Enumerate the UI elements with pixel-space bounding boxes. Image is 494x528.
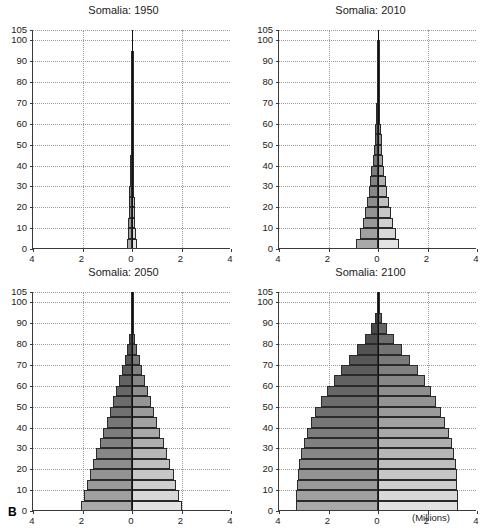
bar-male bbox=[315, 407, 378, 417]
y-tick-mark bbox=[276, 448, 279, 449]
center-axis-line bbox=[132, 292, 133, 510]
y-tick-label: 0 bbox=[2, 244, 27, 254]
y-tick-mark bbox=[30, 124, 33, 125]
gridline-vertical bbox=[83, 292, 84, 510]
y-tick-mark bbox=[30, 407, 33, 408]
x-tick-mark bbox=[279, 511, 280, 514]
bar-male bbox=[119, 375, 132, 385]
bar-male bbox=[341, 365, 378, 375]
gridline-vertical bbox=[329, 292, 330, 510]
x-tick-label: 4 bbox=[218, 254, 242, 264]
y-tick-mark bbox=[276, 302, 279, 303]
bar-female bbox=[378, 323, 387, 333]
bar-male bbox=[357, 344, 378, 354]
y-tick-label: 10 bbox=[2, 485, 27, 495]
y-tick-mark bbox=[276, 145, 279, 146]
bar-male bbox=[371, 323, 378, 333]
y-tick-label: 80 bbox=[248, 77, 273, 87]
gridline-vertical bbox=[428, 30, 429, 248]
y-tick-label: 0 bbox=[248, 244, 273, 254]
x-tick-label: 4 bbox=[218, 516, 242, 526]
bar-female bbox=[132, 490, 179, 500]
y-tick-mark bbox=[276, 61, 279, 62]
bar-male bbox=[321, 396, 378, 406]
y-tick-mark bbox=[276, 344, 279, 345]
gridline-vertical bbox=[329, 30, 330, 248]
plot-area-2010 bbox=[278, 30, 476, 249]
y-tick-label: 105 bbox=[248, 25, 273, 35]
bar-female bbox=[378, 448, 454, 458]
y-tick-label: 40 bbox=[248, 161, 273, 171]
y-tick-label: 90 bbox=[248, 318, 273, 328]
x-tick-mark bbox=[428, 249, 429, 252]
x-tick-mark bbox=[33, 249, 34, 252]
y-tick-label: 105 bbox=[2, 287, 27, 297]
y-tick-label: 105 bbox=[248, 287, 273, 297]
y-tick-mark bbox=[276, 186, 279, 187]
bar-female bbox=[378, 417, 445, 427]
y-tick-label: 40 bbox=[248, 423, 273, 433]
x-tick-label: 0 bbox=[119, 516, 143, 526]
x-tick-label: 4 bbox=[464, 516, 488, 526]
y-tick-label: 50 bbox=[248, 402, 273, 412]
y-tick-label: 105 bbox=[2, 25, 27, 35]
y-tick-mark bbox=[30, 292, 33, 293]
y-tick-label: 70 bbox=[248, 360, 273, 370]
bar-male bbox=[100, 438, 132, 448]
plot-area-1950 bbox=[32, 30, 230, 249]
y-tick-mark bbox=[30, 103, 33, 104]
y-tick-label: 10 bbox=[248, 223, 273, 233]
x-tick-label: 2 bbox=[316, 254, 340, 264]
y-tick-mark bbox=[276, 365, 279, 366]
y-tick-label: 90 bbox=[2, 318, 27, 328]
x-tick-label: 0 bbox=[119, 254, 143, 264]
y-tick-mark bbox=[276, 407, 279, 408]
bar-male bbox=[307, 428, 378, 438]
bar-male bbox=[363, 218, 378, 228]
bar-male bbox=[371, 166, 378, 176]
bar-male bbox=[369, 186, 378, 196]
bar-female bbox=[378, 438, 452, 448]
y-tick-label: 60 bbox=[248, 381, 273, 391]
bar-male bbox=[349, 355, 378, 365]
bar-female bbox=[378, 459, 456, 469]
gridline-vertical bbox=[182, 292, 183, 510]
y-tick-mark bbox=[276, 166, 279, 167]
y-tick-label: 80 bbox=[2, 77, 27, 87]
bar-female bbox=[378, 207, 391, 217]
bar-male bbox=[110, 407, 132, 417]
bar-female bbox=[132, 417, 157, 427]
bar-male bbox=[301, 448, 378, 458]
y-tick-mark bbox=[276, 428, 279, 429]
y-tick-mark bbox=[30, 344, 33, 345]
y-tick-mark bbox=[30, 166, 33, 167]
x-tick-label: 0 bbox=[365, 516, 389, 526]
x-tick-label: 2 bbox=[70, 516, 94, 526]
y-tick-mark bbox=[30, 323, 33, 324]
y-tick-label: 20 bbox=[248, 202, 273, 212]
bar-female bbox=[378, 480, 457, 490]
x-tick-label: 4 bbox=[20, 516, 44, 526]
x-tick-mark bbox=[477, 511, 478, 514]
bar-female bbox=[378, 218, 393, 228]
x-tick-mark bbox=[132, 511, 133, 514]
bar-male bbox=[84, 490, 132, 500]
bar-female bbox=[378, 365, 418, 375]
y-tick-mark bbox=[276, 124, 279, 125]
x-tick-mark bbox=[83, 249, 84, 252]
bar-male bbox=[116, 386, 132, 396]
bar-female bbox=[132, 480, 176, 490]
y-tick-mark bbox=[276, 386, 279, 387]
bar-female bbox=[132, 355, 140, 365]
x-tick-mark bbox=[477, 249, 478, 252]
y-tick-label: 10 bbox=[2, 223, 27, 233]
bar-female bbox=[132, 365, 142, 375]
y-tick-label: 90 bbox=[2, 56, 27, 66]
y-tick-label: 50 bbox=[2, 140, 27, 150]
y-tick-label: 0 bbox=[2, 506, 27, 516]
y-tick-label: 100 bbox=[2, 297, 27, 307]
y-tick-label: 30 bbox=[248, 443, 273, 453]
y-tick-label: 80 bbox=[248, 339, 273, 349]
x-tick-mark bbox=[132, 249, 133, 252]
x-tick-mark bbox=[182, 249, 183, 252]
